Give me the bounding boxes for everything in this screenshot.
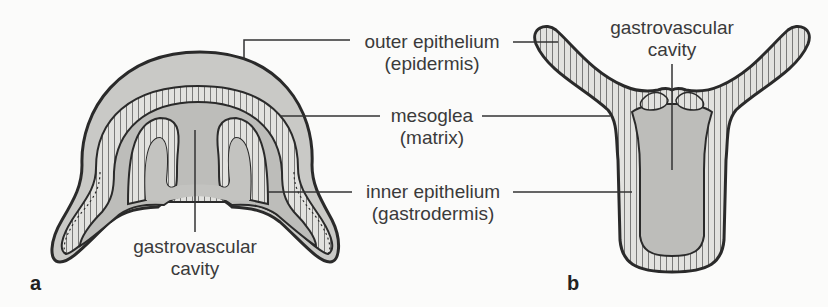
label-cavity-a: gastrovascular cavity — [115, 236, 275, 280]
label-cavity-b: gastrovascular cavity — [592, 17, 752, 61]
label-outer-epithelium-line2: (epidermis) — [352, 53, 512, 75]
label-outer-epithelium-line1: outer epithelium — [352, 31, 512, 53]
label-inner-epithelium: inner epithelium (gastrodermis) — [354, 181, 512, 225]
label-inner-epithelium-line2: (gastrodermis) — [354, 203, 512, 225]
label-cavity-a-line2: cavity — [115, 258, 275, 280]
panel-label-b: b — [567, 272, 579, 295]
label-outer-epithelium: outer epithelium (epidermis) — [352, 31, 512, 75]
panel-label-a: a — [30, 272, 41, 295]
label-inner-epithelium-line1: inner epithelium — [354, 181, 512, 203]
label-mesoglea-line2: (matrix) — [382, 127, 482, 149]
label-mesoglea-line1: mesoglea — [382, 105, 482, 127]
leader-outer-epithelium-a — [244, 40, 350, 60]
label-cavity-a-line1: gastrovascular — [115, 236, 275, 258]
label-mesoglea: mesoglea (matrix) — [382, 105, 482, 149]
label-cavity-b-line2: cavity — [592, 39, 752, 61]
label-cavity-b-line1: gastrovascular — [592, 17, 752, 39]
